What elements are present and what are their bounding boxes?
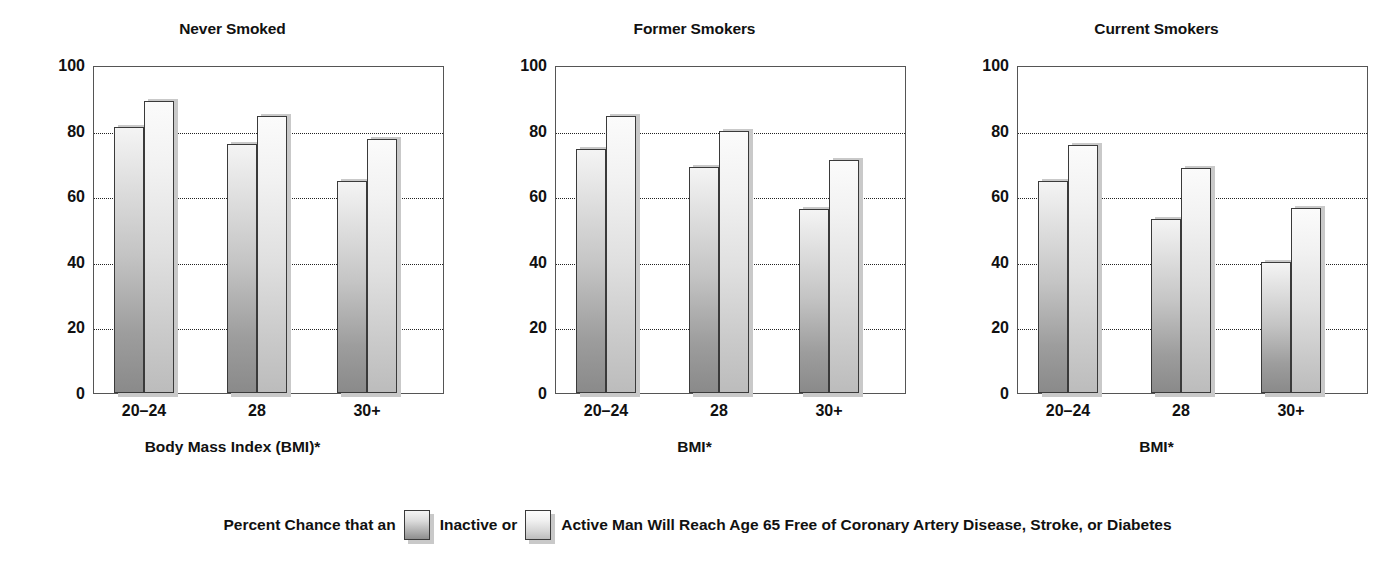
- legend-label-active: Active Man Will Reach Age 65 Free of Cor…: [561, 517, 1171, 533]
- bar-inactive-30plus: [799, 209, 829, 393]
- bar-active-30plus: [829, 160, 859, 393]
- bar-group-28: [689, 67, 751, 393]
- x-axis-title: BMI*: [924, 438, 1389, 456]
- bar-inactive-20-24: [114, 127, 144, 393]
- chart-panel-never-smoked: Never Smoked 100 80 60 40 20 0: [0, 14, 465, 484]
- bar-inactive-28: [227, 144, 257, 393]
- x-axis-tick-labels: 20–24 28 30+: [555, 402, 906, 428]
- bar-inactive-30plus: [337, 181, 367, 393]
- bar-group-30plus: [1261, 67, 1323, 393]
- x-tick-30plus: 30+: [784, 402, 874, 420]
- bar-active-28: [719, 131, 749, 393]
- x-axis-title: Body Mass Index (BMI)*: [0, 438, 465, 456]
- legend-swatch-inactive: [404, 510, 430, 540]
- y-tick-80: 80: [495, 124, 547, 140]
- y-tick-40: 40: [33, 255, 85, 271]
- y-tick-0: 0: [495, 386, 547, 402]
- x-axis-tick-labels: 20–24 28 30+: [1017, 402, 1368, 428]
- bar-active-30plus: [367, 139, 397, 393]
- bar-inactive-20-24: [1038, 181, 1068, 393]
- bar-active-28: [1181, 168, 1211, 393]
- bar-active-30plus: [1291, 208, 1321, 393]
- y-tick-100: 100: [495, 58, 547, 74]
- bar-group-30plus: [799, 67, 861, 393]
- y-tick-40: 40: [495, 255, 547, 271]
- y-tick-80: 80: [957, 124, 1009, 140]
- bar-active-20-24: [1068, 145, 1098, 393]
- figure-bar-chart-panels: Never Smoked 100 80 60 40 20 0: [0, 0, 1395, 575]
- x-axis-title: BMI*: [462, 438, 927, 456]
- bar-active-20-24: [144, 101, 174, 393]
- plot-area: [555, 66, 906, 394]
- x-tick-20-24: 20–24: [1023, 402, 1113, 420]
- x-tick-28: 28: [1136, 402, 1226, 420]
- y-tick-40: 40: [957, 255, 1009, 271]
- chart-panel-current-smokers: Current Smokers 100 80 60 40 20 0: [924, 14, 1389, 484]
- chart-panel-former-smokers: Former Smokers 100 80 60 40 20 0: [462, 14, 927, 484]
- x-tick-28: 28: [674, 402, 764, 420]
- y-tick-20: 20: [495, 320, 547, 336]
- bar-active-20-24: [606, 116, 636, 393]
- x-tick-20-24: 20–24: [561, 402, 651, 420]
- legend-label-inactive: Inactive or: [440, 517, 518, 533]
- plot-area: [1017, 66, 1368, 394]
- legend-swatch-active-wrap: [517, 508, 561, 542]
- y-tick-60: 60: [33, 189, 85, 205]
- y-tick-100: 100: [957, 58, 1009, 74]
- legend-prefix-text: Percent Chance that an: [223, 517, 395, 533]
- y-tick-20: 20: [957, 320, 1009, 336]
- bar-inactive-28: [689, 167, 719, 393]
- y-axis-tick-labels: 100 80 60 40 20 0: [27, 66, 85, 394]
- bar-group-30plus: [337, 67, 399, 393]
- panel-title: Current Smokers: [924, 20, 1389, 38]
- x-tick-30plus: 30+: [1246, 402, 1336, 420]
- bar-group-20-24: [576, 67, 638, 393]
- bar-group-20-24: [1038, 67, 1100, 393]
- y-tick-60: 60: [957, 189, 1009, 205]
- bar-group-28: [227, 67, 289, 393]
- bar-group-20-24: [114, 67, 176, 393]
- bar-active-28: [257, 116, 287, 393]
- y-tick-60: 60: [495, 189, 547, 205]
- chart-legend: Percent Chance that an Inactive or Activ…: [0, 505, 1395, 545]
- x-tick-30plus: 30+: [322, 402, 412, 420]
- plot-area: [93, 66, 444, 394]
- y-axis-tick-labels: 100 80 60 40 20 0: [951, 66, 1009, 394]
- bar-inactive-30plus: [1261, 262, 1291, 393]
- x-tick-20-24: 20–24: [99, 402, 189, 420]
- y-tick-20: 20: [33, 320, 85, 336]
- bar-group-28: [1151, 67, 1213, 393]
- y-tick-0: 0: [33, 386, 85, 402]
- y-axis-tick-labels: 100 80 60 40 20 0: [489, 66, 547, 394]
- legend-swatch-active: [525, 510, 551, 540]
- legend-swatch-inactive-wrap: [396, 508, 440, 542]
- bar-inactive-20-24: [576, 149, 606, 393]
- x-tick-28: 28: [212, 402, 302, 420]
- x-axis-tick-labels: 20–24 28 30+: [93, 402, 444, 428]
- bar-inactive-28: [1151, 219, 1181, 393]
- panel-title: Never Smoked: [0, 20, 465, 38]
- panel-title: Former Smokers: [462, 20, 927, 38]
- y-tick-80: 80: [33, 124, 85, 140]
- y-tick-100: 100: [33, 58, 85, 74]
- y-tick-0: 0: [957, 386, 1009, 402]
